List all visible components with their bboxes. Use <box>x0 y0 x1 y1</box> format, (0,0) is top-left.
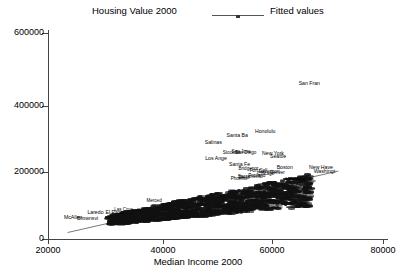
cluster-point <box>211 197 221 199</box>
cluster-point <box>264 184 268 187</box>
cluster-point <box>112 218 119 221</box>
cluster-point <box>227 207 233 210</box>
cluster-point <box>168 214 176 217</box>
cluster-point <box>166 209 175 212</box>
cluster-point <box>123 219 134 222</box>
cluster-point <box>254 186 264 189</box>
cluster-point <box>217 203 222 206</box>
cluster-point <box>112 217 123 220</box>
cluster-point <box>125 218 135 221</box>
cluster-point <box>241 209 253 212</box>
cluster-point <box>187 201 196 203</box>
cluster-point <box>152 208 163 211</box>
cluster-point <box>297 176 302 179</box>
cluster-point <box>227 197 236 200</box>
cluster-point <box>285 186 292 189</box>
cluster-point <box>141 215 150 218</box>
cluster-point <box>132 212 140 216</box>
cluster-point <box>248 187 255 189</box>
cluster-point <box>242 191 252 193</box>
cluster-point <box>116 215 119 218</box>
cluster-point <box>259 204 265 207</box>
cluster-point <box>267 196 271 199</box>
cluster-point <box>256 204 264 207</box>
cluster-point <box>109 215 118 218</box>
cluster-point <box>280 187 287 191</box>
point-label: Minneapo <box>285 178 305 183</box>
cluster-point <box>153 215 161 218</box>
cluster-point <box>178 211 182 214</box>
cluster-point <box>224 205 233 207</box>
cluster-point <box>274 193 280 196</box>
cluster-point <box>223 210 232 214</box>
cluster-point <box>181 216 189 219</box>
cluster-point <box>262 192 268 195</box>
cluster-point <box>143 215 153 218</box>
cluster-point <box>304 173 312 175</box>
cluster-point <box>141 209 150 211</box>
cluster-point <box>227 213 236 215</box>
cluster-point <box>175 202 183 205</box>
cluster-point <box>143 219 151 221</box>
cluster-point <box>259 192 271 195</box>
cluster-point <box>212 210 220 213</box>
cluster-point <box>205 206 216 209</box>
cluster-point <box>198 198 201 202</box>
cluster-point <box>245 210 249 213</box>
cluster-point <box>123 210 133 213</box>
cluster-point <box>247 201 257 203</box>
cluster-point <box>152 211 161 214</box>
point-label: Santa Ba <box>227 134 248 139</box>
cluster-point <box>136 212 141 214</box>
cluster-point <box>208 213 212 216</box>
cluster-point <box>259 200 268 203</box>
cluster-point <box>129 214 139 217</box>
cluster-point <box>266 187 271 191</box>
cluster-point <box>127 220 130 223</box>
cluster-point <box>118 220 124 223</box>
cluster-point <box>161 214 165 216</box>
cluster-point <box>199 213 204 216</box>
cluster-point <box>235 206 241 208</box>
cluster-point <box>179 217 190 219</box>
cluster-point <box>259 202 268 205</box>
cluster-point <box>197 214 208 217</box>
cluster-point <box>150 210 161 214</box>
cluster-point <box>165 202 173 204</box>
cluster-point <box>161 203 170 206</box>
cluster-point <box>131 214 138 216</box>
cluster-point <box>221 195 225 198</box>
cluster-point <box>198 214 202 216</box>
cluster-point <box>159 214 165 216</box>
cluster-point <box>218 206 223 209</box>
cluster-point <box>105 216 117 219</box>
cluster-point <box>110 221 115 223</box>
cluster-point <box>157 217 166 220</box>
cluster-point <box>195 208 199 211</box>
cluster-point <box>251 207 257 210</box>
cluster-point <box>301 188 306 191</box>
cluster-point <box>148 217 159 220</box>
cluster-point <box>161 214 170 216</box>
cluster-point <box>292 190 296 192</box>
cluster-point <box>217 198 226 201</box>
cluster-point <box>149 216 154 220</box>
cluster-point <box>119 217 123 219</box>
cluster-point <box>290 182 295 185</box>
cluster-point <box>145 213 155 216</box>
cluster-point <box>173 201 179 204</box>
cluster-point <box>148 214 155 216</box>
cluster-point <box>160 217 171 220</box>
cluster-point <box>288 199 291 201</box>
cluster-point <box>140 218 151 221</box>
cluster-point <box>154 209 158 212</box>
cluster-point <box>243 191 246 193</box>
cluster-point <box>241 204 251 207</box>
cluster-point <box>292 179 298 182</box>
cluster-point <box>266 194 270 197</box>
cluster-point <box>220 199 231 202</box>
cluster-point <box>281 201 288 204</box>
cluster-point <box>303 190 314 193</box>
cluster-point <box>159 214 164 217</box>
cluster-point <box>229 194 238 197</box>
